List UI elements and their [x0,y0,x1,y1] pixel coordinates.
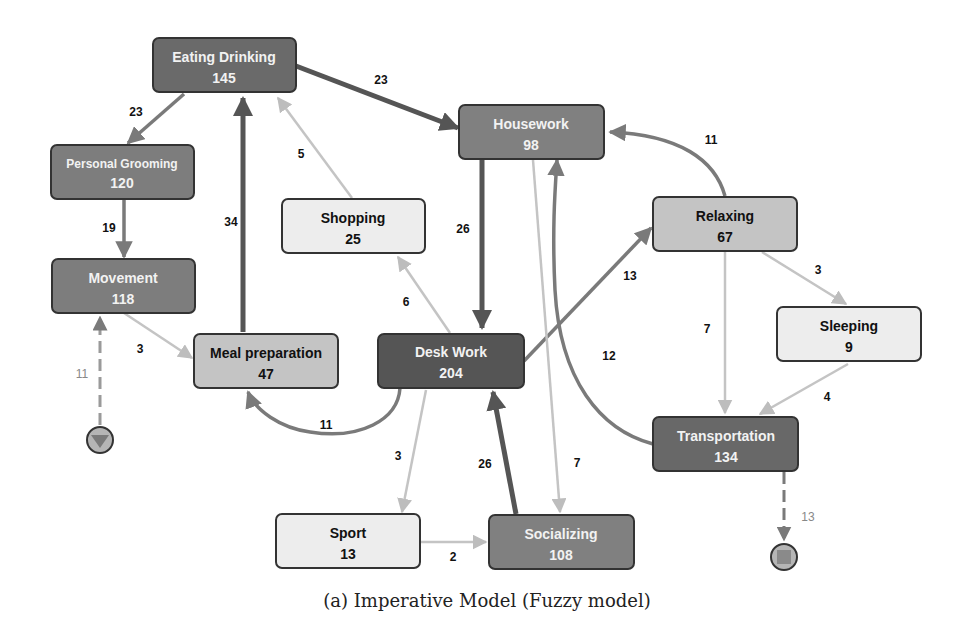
edge-label: 6 [403,295,410,309]
edge-desk-to-sport [402,390,426,512]
node-name: Housework [493,116,569,132]
node-name: Movement [88,270,158,286]
node-value: 145 [212,70,236,86]
edge-label: 4 [824,390,831,404]
node-value: 204 [439,365,463,381]
node-sleeping[interactable]: Sleeping 9 [777,307,921,361]
node-value: 9 [845,339,853,355]
node-name: Relaxing [696,208,754,224]
node-meal-preparation[interactable]: Meal preparation 47 [194,334,338,388]
node-name: Sport [330,525,367,541]
edge-label: 12 [602,349,616,363]
node-socializing[interactable]: Socializing 108 [489,515,634,569]
node-value: 108 [549,547,573,563]
node-value: 47 [258,366,274,382]
edge-label: 34 [224,215,238,229]
edge-socializing-to-desk [493,392,516,514]
edge-label: 5 [298,147,305,161]
node-value: 98 [523,137,539,153]
node-name: Shopping [321,210,386,226]
edge-label: 3 [137,342,144,356]
edge-label: 7 [574,456,581,470]
edge-label: 11 [320,418,333,432]
edge-movement-to-meal [124,313,192,358]
fuzzy-model-diagram: 23 23 19 34 5 26 11 6 13 3 7 12 4 3 11 1… [0,0,974,633]
node-name: Socializing [524,526,597,542]
edge-label: 26 [478,457,492,471]
edge-relaxing-to-sleeping [762,252,846,304]
edge-label: 7 [704,322,711,336]
edge-label: 13 [623,269,637,283]
edge-label: 23 [129,105,143,119]
node-name: Transportation [677,428,775,444]
node-name: Eating Drinking [172,49,275,65]
edge-housework-to-socializing [533,160,560,512]
node-value: 118 [112,291,135,307]
node-value: 25 [345,231,361,247]
node-housework[interactable]: Housework 98 [459,105,604,159]
nodes: Eating Drinking 145 Personal Grooming 12… [51,38,921,569]
start-node [87,427,113,453]
edge-sleeping-to-transport [760,364,848,414]
edge-label: 3 [395,449,402,463]
node-shopping[interactable]: Shopping 25 [282,199,425,253]
end-node [771,544,797,570]
edge-label: 19 [102,221,116,235]
node-sport[interactable]: Sport 13 [276,514,420,568]
node-relaxing[interactable]: Relaxing 67 [653,197,797,251]
edge-transport-to-housework [554,160,653,444]
edge-label: 13 [801,510,815,524]
edge-label: 11 [76,367,89,381]
edge-label: 3 [815,263,822,277]
edge-label: 26 [456,222,470,236]
end-square-icon [777,550,791,564]
node-eating-drinking[interactable]: Eating Drinking 145 [153,38,296,92]
node-name: Meal preparation [210,345,322,361]
node-name: Personal Grooming [66,157,177,171]
figure-caption: (a) Imperative Model (Fuzzy model) [0,590,974,611]
node-transportation[interactable]: Transportation 134 [653,417,798,471]
node-name: Sleeping [820,318,878,334]
edge-label: 11 [705,133,718,147]
node-value: 67 [717,229,733,245]
node-value: 134 [714,449,738,465]
node-name: Desk Work [415,344,487,360]
node-desk-work[interactable]: Desk Work 204 [378,334,524,388]
edge-label: 23 [374,73,388,87]
node-value: 120 [110,175,134,191]
edge-label: 2 [450,550,457,564]
node-value: 13 [340,546,356,562]
node-personal-grooming[interactable]: Personal Grooming 120 [51,145,194,199]
edge-shopping-to-eating [278,98,352,198]
node-movement[interactable]: Movement 118 [52,259,195,313]
